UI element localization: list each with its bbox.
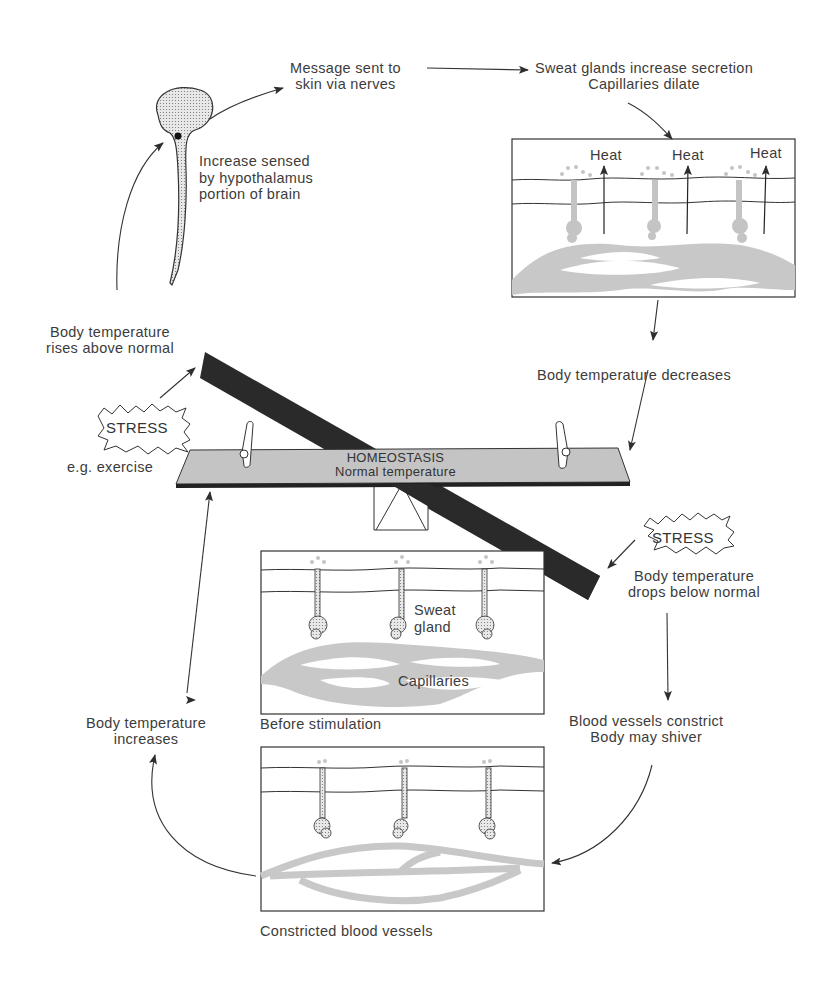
label-line: Capillaries dilate — [535, 76, 753, 92]
heat-label-1: Heat — [590, 147, 622, 163]
panel-constricted — [261, 747, 544, 911]
label-line: Increase sensed — [199, 153, 313, 170]
heat-label-3: Heat — [750, 145, 782, 161]
label-message-sent: Message sent to skin via nerves — [290, 60, 401, 92]
label-line: by hypothalamus — [199, 170, 313, 187]
label-line: Body may shiver — [569, 729, 723, 745]
panel-dilated — [512, 139, 795, 297]
label-temp-increases: Body temperature increases — [86, 715, 206, 747]
label-line: Body temperature — [86, 715, 206, 731]
label-sweat-glands-increase: Sweat glands increase secretion Capillar… — [535, 60, 753, 92]
stress-badge-right: STRESS — [652, 529, 714, 546]
homeostasis-subtitle: Normal temperature — [335, 465, 456, 479]
homeostasis-diagram: Message sent to skin via nerves Increase… — [0, 0, 839, 984]
label-line: skin via nerves — [290, 76, 401, 92]
panel-before — [261, 551, 544, 714]
label-line: Sweat — [414, 602, 456, 619]
label-temp-rises: Body temperature rises above normal — [46, 324, 174, 356]
label-line: Body temperature — [628, 568, 760, 584]
diagram-graphics — [0, 0, 839, 984]
label-line: Blood vessels constrict — [569, 713, 723, 729]
label-line: rises above normal — [46, 340, 174, 356]
label-line: drops below normal — [628, 584, 760, 600]
label-temp-decreases: Body temperature decreases — [537, 367, 731, 383]
label-hypothalamus: Increase sensed by hypothalamus portion … — [199, 153, 313, 203]
label-line: increases — [86, 731, 206, 747]
homeostasis-title: HOMEOSTASIS — [335, 451, 456, 465]
label-exercise: e.g. exercise — [67, 459, 153, 475]
label-line: Message sent to — [290, 60, 401, 76]
label-capillaries: Capillaries — [398, 673, 469, 689]
caption-before-stimulation: Before stimulation — [260, 716, 381, 732]
label-blood-vessels-constrict: Blood vessels constrict Body may shiver — [569, 713, 723, 745]
homeostasis-label: HOMEOSTASIS Normal temperature — [335, 451, 456, 479]
heat-label-2: Heat — [672, 147, 704, 163]
label-line: gland — [414, 619, 456, 636]
label-line: Body temperature — [46, 324, 174, 340]
label-sweat-gland: Sweat gland — [414, 602, 456, 636]
label-temp-drops: Body temperature drops below normal — [628, 568, 760, 600]
caption-constricted: Constricted blood vessels — [260, 923, 433, 939]
stress-badge-left: STRESS — [106, 419, 168, 436]
label-line: Sweat glands increase secretion — [535, 60, 753, 76]
label-line: portion of brain — [199, 186, 313, 203]
